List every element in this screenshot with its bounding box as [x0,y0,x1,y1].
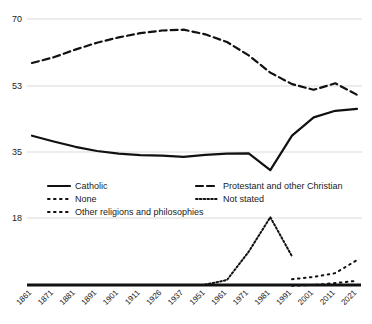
religion-affiliation-line-chart: 70 53 35 18 1861187118811891190119111926… [0,0,372,324]
chart-legend: CatholicNoneOther religions and philosop… [48,181,343,217]
chart-canvas: 70 53 35 18 1861187118811891190119111926… [0,0,372,324]
series-line-none [292,260,357,279]
legend-label: Protestant and other Christian [223,181,343,191]
y-tick-35: 35 [12,147,22,157]
x-tick-1981: 1981 [253,288,272,307]
x-tick-2021: 2021 [339,288,358,307]
x-tick-2011: 2011 [318,288,337,307]
legend-label: None [75,194,97,204]
x-tick-1951: 1951 [188,288,207,307]
x-tick-1971: 1971 [231,288,250,307]
x-tick-2001: 2001 [296,288,315,307]
series-line-catholic [32,109,357,170]
legend-item-none[interactable]: None [48,194,97,204]
legend-item-not-stated[interactable]: Not stated [196,194,264,204]
x-tick-1891: 1891 [79,288,98,307]
x-tick-1961: 1961 [209,288,228,307]
legend-item-protestant-and-other-christian[interactable]: Protestant and other Christian [196,181,343,191]
x-tick-1861: 1861 [14,288,33,307]
y-tick-53: 53 [12,81,22,91]
y-tick-18: 18 [12,213,22,223]
legend-label: Catholic [75,181,108,191]
x-tick-1991: 1991 [274,288,293,307]
legend-item-other-religions-and-philosophies[interactable]: Other religions and philosophies [48,207,204,217]
x-tick-1926: 1926 [144,288,163,307]
x-tick-1901: 1901 [101,288,120,307]
x-axis-tick-labels: 1861187118811891190119111926193719511961… [14,288,358,307]
legend-item-catholic[interactable]: Catholic [48,181,108,191]
series-layer [32,30,357,286]
y-axis-tick-labels: 70 53 35 18 [12,14,22,223]
y-tick-70: 70 [12,14,22,24]
x-tick-1881: 1881 [58,288,77,307]
x-tick-1871: 1871 [36,288,55,307]
legend-label: Other religions and philosophies [75,207,204,217]
series-line-protestant-and-other-christian [32,30,357,95]
x-tick-1937: 1937 [166,288,185,307]
legend-label: Not stated [223,194,264,204]
series-line-not-stated [205,217,292,284]
x-tick-1911: 1911 [123,288,142,307]
